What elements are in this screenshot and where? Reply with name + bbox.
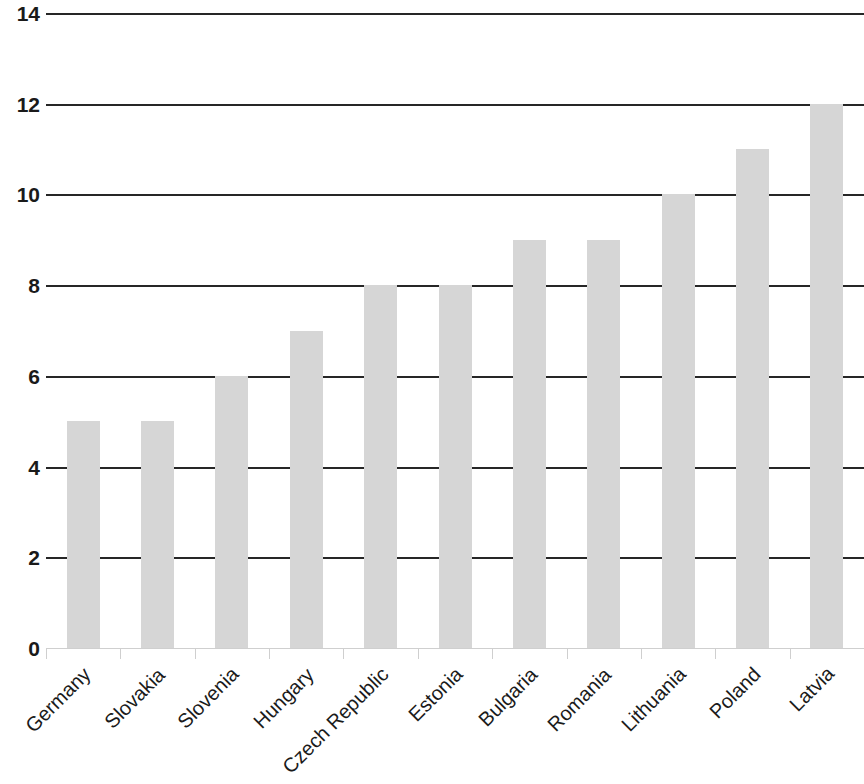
y-tick-label: 10 [0,184,40,205]
x-tick-mark [418,649,419,659]
x-axis-label: Hungary [249,663,319,733]
bar[interactable] [587,240,620,648]
y-tick-label: 4 [0,456,40,477]
x-axis-label: Bulgaria [474,663,542,731]
x-tick-mark [343,649,344,659]
x-tick-mark [46,649,47,659]
y-tick-label: 2 [0,547,40,568]
bar[interactable] [290,331,323,649]
x-axis-label: Lithuania [617,663,691,737]
x-tick-mark [567,649,568,659]
bar[interactable] [215,376,248,648]
x-axis-label: Germany [21,663,95,737]
y-tick-label: 0 [0,638,40,659]
plot-area [46,0,864,648]
x-axis-label: Estonia [404,663,467,726]
bar[interactable] [141,421,174,648]
x-tick-mark [492,649,493,659]
y-tick-label: 14 [0,3,40,24]
bar[interactable] [810,104,843,648]
y-tick-label: 12 [0,93,40,114]
bar[interactable] [439,285,472,648]
x-tick-mark [641,649,642,659]
x-axis-line [46,648,864,649]
x-tick-mark [269,649,270,659]
x-axis-label: Slovakia [100,663,170,733]
bar[interactable] [662,194,695,648]
x-tick-mark [195,649,196,659]
x-tick-mark [120,649,121,659]
x-tick-mark [790,649,791,659]
bar[interactable] [67,421,100,648]
x-axis-label: Romania [543,663,616,736]
y-tick-label: 6 [0,365,40,386]
y-tick-label: 8 [0,275,40,296]
x-axis-label: Poland [705,663,765,723]
bar[interactable] [364,285,397,648]
bar[interactable] [736,149,769,648]
bar-chart: 02468101214 GermanySlovakiaSloveniaHunga… [0,0,864,784]
x-axis-label: Latvia [785,663,839,717]
x-axis-label: Slovenia [173,663,244,734]
x-tick-mark [715,649,716,659]
bar[interactable] [513,240,546,648]
